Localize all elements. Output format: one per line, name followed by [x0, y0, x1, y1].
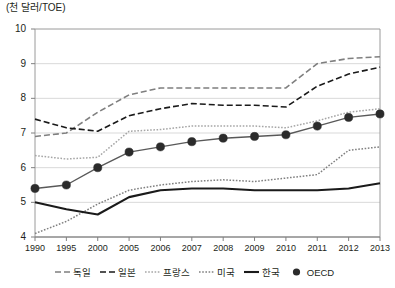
data-point-marker	[94, 164, 102, 172]
legend-swatch-icon	[145, 268, 160, 276]
legend-swatch-icon	[199, 268, 214, 276]
y-axis-tick-label: 10	[4, 24, 26, 34]
legend-label: 한국	[262, 265, 280, 279]
series-line-한국	[35, 183, 380, 214]
legend-swatch-icon	[55, 268, 70, 276]
legend-label: 독일	[73, 265, 91, 279]
series-line-프랑스	[35, 109, 380, 159]
data-point-marker	[188, 138, 196, 146]
y-axis-tick-label: 8	[4, 93, 26, 103]
legend-swatch-icon	[100, 268, 115, 276]
series-line-독일	[35, 57, 380, 137]
legend-label: OECD	[307, 267, 334, 278]
data-point-marker	[156, 143, 164, 151]
legend-label: 프랑스	[163, 265, 190, 279]
legend-item-한국: 한국	[244, 265, 280, 279]
y-axis-tick-label: 7	[4, 128, 26, 138]
legend-swatch-icon	[289, 268, 304, 276]
legend-item-미국: 미국	[199, 265, 235, 279]
legend-swatch-icon	[244, 268, 259, 276]
data-point-marker	[376, 110, 384, 118]
data-point-marker	[125, 148, 133, 156]
data-point-marker	[250, 132, 258, 140]
data-point-marker	[282, 131, 290, 139]
data-point-marker	[345, 113, 353, 121]
legend-label: 일본	[118, 265, 136, 279]
x-axis-tick-label: 2013	[362, 243, 395, 253]
y-axis-tick-label: 5	[4, 197, 26, 207]
data-point-marker	[313, 122, 321, 130]
legend-item-OECD: OECD	[289, 267, 334, 278]
legend-item-독일: 독일	[55, 265, 91, 279]
data-point-marker	[62, 181, 70, 189]
legend-item-일본: 일본	[100, 265, 136, 279]
data-point-marker	[219, 134, 227, 142]
y-axis-tick-label: 6	[4, 163, 26, 173]
legend-label: 미국	[217, 265, 235, 279]
data-point-marker	[31, 184, 39, 192]
chart-legend: 독일일본프랑스미국한국OECD	[0, 265, 389, 279]
series-line-OECD	[35, 114, 380, 189]
y-axis-tick-label: 9	[4, 59, 26, 69]
y-axis-tick-label: 4	[4, 232, 26, 242]
legend-item-프랑스: 프랑스	[145, 265, 190, 279]
series-line-일본	[35, 67, 380, 131]
